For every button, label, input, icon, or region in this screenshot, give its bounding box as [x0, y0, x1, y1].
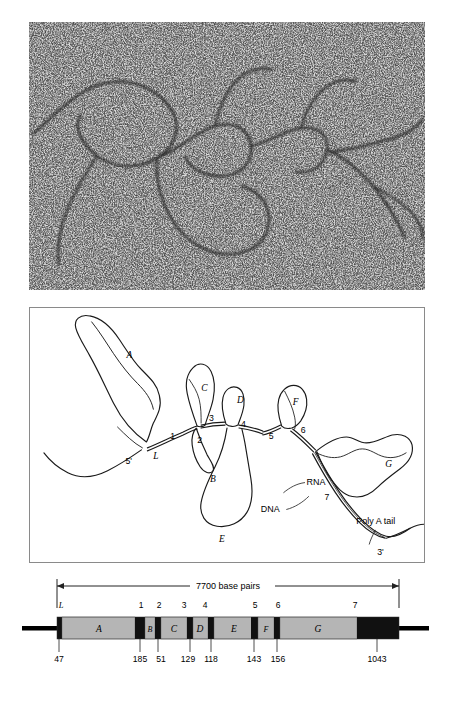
segment-intron-4	[208, 617, 214, 639]
r-loop-figure: A C D F G B E L 1 2 3 4 5 6 7 5' 3'	[0, 0, 451, 701]
tracing-three-prime: 3'	[377, 547, 384, 557]
genemap-top-label-2: 2	[157, 600, 162, 610]
gene-body-bar	[57, 617, 399, 639]
tracing-diagram-panel: A C D F G B E L 1 2 3 4 5 6 7 5' 3'	[29, 307, 425, 563]
genemap-top-label-7: 7	[353, 600, 358, 610]
genemap-exon-label-A: A	[95, 624, 102, 634]
genemap-top-label-L: L	[58, 600, 64, 610]
rna-leader-line	[284, 483, 305, 493]
poly-a-strand	[386, 524, 424, 538]
genemap-size-47: 47	[54, 654, 64, 664]
genemap-exon-label-B: B	[148, 625, 153, 634]
genemap-size-1043: 1043	[367, 654, 386, 664]
scale-bar-label: 7700 base pairs	[196, 581, 261, 591]
tracing-intron-3: 3	[209, 413, 214, 423]
gene-map-panel: 7700 base pairs L 1 2 3 4 5 6 7	[20, 572, 431, 682]
genemap-exon-label-C: C	[171, 624, 178, 634]
tracing-label-A: A	[126, 350, 133, 360]
genemap-top-label-3: 3	[182, 600, 187, 610]
genemap-size-118: 118	[204, 654, 218, 664]
segment-intron-5	[251, 617, 258, 639]
flanking-dna-left	[22, 626, 57, 631]
genemap-exon-label-D: D	[196, 624, 204, 634]
tracing-intron-5: 5	[269, 431, 274, 441]
loop-B	[192, 428, 214, 473]
genemap-bottom-ticks	[59, 639, 377, 652]
segment-intron-2	[155, 617, 161, 639]
flanking-dna-right	[399, 626, 429, 631]
tracing-drawing: A C D F G B E L 1 2 3 4 5 6 7 5' 3'	[30, 308, 424, 562]
genemap-size-156: 156	[271, 654, 286, 664]
tracing-intron-4: 4	[241, 419, 246, 429]
genemap-size-185: 185	[133, 654, 148, 664]
electron-micrograph-panel	[29, 22, 425, 290]
genemap-top-label-1: 1	[139, 600, 144, 610]
tracing-label-L: L	[152, 451, 158, 461]
tracing-label-G: G	[385, 459, 392, 469]
tracing-intron-7: 7	[325, 492, 330, 502]
genemap-size-143: 143	[247, 654, 262, 664]
loop-A	[75, 316, 160, 442]
genemap-exon-label-G: G	[315, 624, 322, 634]
genemap-exon-label-E: E	[230, 624, 237, 634]
segment-intron-6	[274, 617, 280, 639]
loop-G	[317, 434, 413, 497]
loop-E	[201, 428, 252, 527]
gene-map-drawing: 7700 base pairs L 1 2 3 4 5 6 7	[20, 572, 431, 682]
tracing-label-E: E	[218, 534, 225, 544]
genemap-size-51: 51	[156, 654, 166, 664]
genemap-size-129: 129	[181, 654, 196, 664]
tracing-intron-2: 2	[197, 435, 202, 445]
tracing-five-prime: 5'	[126, 456, 133, 466]
tracing-dna-label: DNA	[261, 504, 280, 514]
tracing-label-B: B	[210, 474, 216, 484]
micrograph-image	[29, 22, 425, 290]
tracing-polya-label: Poly A tail	[356, 516, 395, 526]
tracing-label-D: D	[236, 395, 244, 405]
dna-leader-line	[287, 497, 309, 510]
genemap-exon-label-F: F	[263, 625, 269, 634]
tracing-intron-6: 6	[301, 425, 306, 435]
tracing-label-F: F	[292, 397, 299, 407]
genemap-top-label-4: 4	[203, 600, 208, 610]
segment-intron-1	[135, 617, 145, 639]
segment-L-leader	[57, 617, 62, 639]
genemap-top-label-6: 6	[276, 600, 281, 610]
genemap-top-label-5: 5	[253, 600, 258, 610]
tracing-label-C: C	[201, 383, 208, 393]
tracing-rna-label: RNA	[307, 477, 326, 487]
segment-intron-3	[187, 617, 193, 639]
tracing-intron-1: 1	[170, 431, 175, 441]
segment-intron-7	[357, 617, 399, 639]
